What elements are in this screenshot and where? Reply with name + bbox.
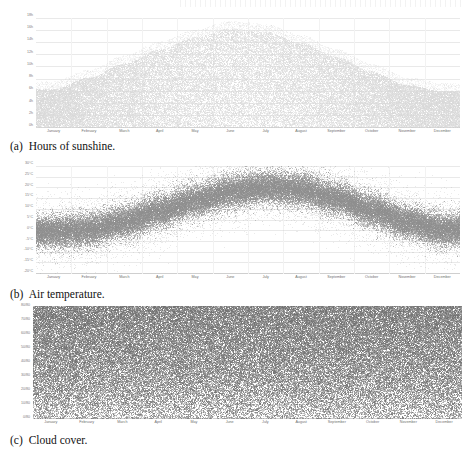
x-tick-label-month: June <box>226 130 234 134</box>
x-tick-label-month: October <box>365 130 378 134</box>
x-tick-label-month: July <box>262 130 269 134</box>
x-tick-label-month: October <box>366 421 379 425</box>
caption-c-tag: (c) <box>10 434 23 446</box>
x-tick-label-month: August <box>295 130 306 134</box>
x-tick-label-month: January <box>47 130 60 134</box>
plot-area-c <box>33 306 462 419</box>
caption-b-text: Air temperature. <box>29 288 105 300</box>
plot-c: 80/8070/8060/8050/8040/8030/8020/8010/80… <box>0 306 465 434</box>
y-tick-label: 14h <box>27 39 33 43</box>
x-tick-label-month: September <box>327 276 345 280</box>
subfigure-a-hours-of-sunshine: 18h16h14h12h10h8h6h4h2h0h JanuaryFebruar… <box>0 16 465 144</box>
previous-figure-remnant <box>180 0 465 7</box>
y-tick-label: -5°C <box>26 238 33 242</box>
x-tick-label-month: January <box>47 276 60 280</box>
subfigure-c-cloud-cover: 80/8070/8060/8050/8040/8030/8020/8010/80… <box>0 306 465 456</box>
x-tick-label-month: August <box>295 276 306 280</box>
x-tick-label-month: May <box>192 130 199 134</box>
x-tick-label-month: February <box>82 276 97 280</box>
y-tick-label: 0°C <box>27 227 33 231</box>
scatter-cloud-a <box>36 18 460 128</box>
y-tick-label: 40/80 <box>21 360 30 364</box>
x-tick-label-month: July <box>262 421 269 425</box>
x-tick-label-month: April <box>156 276 163 280</box>
x-tick-label-month: December <box>436 421 453 425</box>
y-tick-label: 2h <box>29 112 33 116</box>
y-tick-label: 30/80 <box>21 374 30 378</box>
y-tick-label: 8h <box>29 75 33 79</box>
y-tick-label: 50/80 <box>21 346 30 350</box>
caption-b: (b) Air temperature. <box>10 288 105 301</box>
y-tick-label: 30°C <box>25 162 33 166</box>
x-axis-b: JanuaryFebruaryMarchAprilMayJuneJulyAugu… <box>0 276 465 284</box>
y-axis-a: 18h16h14h12h10h8h6h4h2h0h <box>0 16 33 128</box>
y-tick-label: 4h <box>29 100 33 104</box>
y-tick-label: 15°C <box>25 195 33 199</box>
y-tick-label: 20/80 <box>21 388 30 392</box>
x-tick-label-month: October <box>365 276 378 280</box>
y-axis-b: 30°C25°C20°C15°C10°C5°C0°C-5°C-10°C-15°C… <box>0 164 33 274</box>
y-tick-label: 5°C <box>27 216 33 220</box>
x-tick-label-month: February <box>79 421 94 425</box>
plot-a: 18h16h14h12h10h8h6h4h2h0h JanuaryFebruar… <box>0 16 465 134</box>
y-tick-label: 16h <box>27 26 33 30</box>
caption-a: (a) Hours of sunshine. <box>10 140 115 153</box>
x-tick-label-month: April <box>156 130 163 134</box>
scatter-cloud-c <box>33 306 462 419</box>
y-tick-label: 12h <box>27 51 33 55</box>
y-tick-label: -10°C <box>24 249 33 253</box>
y-axis-c: 80/8070/8060/8050/8040/8030/8020/8010/80… <box>0 306 30 419</box>
y-tick-label: -15°C <box>24 259 33 263</box>
x-tick-label-month: February <box>82 130 97 134</box>
caption-c: (c) Cloud cover. <box>10 434 87 447</box>
x-axis-a: JanuaryFebruaryMarchAprilMayJuneJulyAugu… <box>0 130 465 138</box>
x-tick-label-month: November <box>398 130 415 134</box>
x-tick-label-month: December <box>434 130 451 134</box>
x-axis-c: JanuaryFebruaryMarchAprilMayJuneJulyAugu… <box>0 421 465 429</box>
y-tick-label: 6h <box>29 88 33 92</box>
x-tick-label-month: June <box>226 276 234 280</box>
y-tick-label: 70/80 <box>21 318 30 322</box>
y-tick-label: 80/80 <box>21 304 30 308</box>
y-tick-label: -20°C <box>24 270 33 274</box>
y-tick-label: 20°C <box>25 184 33 188</box>
plot-area-b <box>36 166 460 274</box>
x-tick-label-month: March <box>117 421 127 425</box>
figure-page: 18h16h14h12h10h8h6h4h2h0h JanuaryFebruar… <box>0 0 465 459</box>
scatter-cloud-b <box>36 166 460 274</box>
caption-c-text: Cloud cover. <box>29 434 88 446</box>
caption-b-tag: (b) <box>10 288 23 300</box>
x-tick-label-month: May <box>192 276 199 280</box>
y-tick-label: 10h <box>27 63 33 67</box>
y-tick-label: 10/80 <box>21 402 30 406</box>
x-tick-label-month: March <box>119 276 129 280</box>
plot-b: 30°C25°C20°C15°C10°C5°C0°C-5°C-10°C-15°C… <box>0 164 465 284</box>
x-tick-label-month: September <box>327 130 345 134</box>
x-tick-label-month: December <box>434 276 451 280</box>
x-tick-label-month: November <box>400 421 417 425</box>
y-tick-label: 18h <box>27 14 33 18</box>
x-tick-label-month: November <box>398 276 415 280</box>
y-tick-label: 0/80 <box>23 416 30 420</box>
y-tick-label: 0h <box>29 124 33 128</box>
x-tick-label-month: March <box>119 130 129 134</box>
y-tick-label: 25°C <box>25 173 33 177</box>
x-tick-label-month: July <box>262 276 269 280</box>
x-tick-label-month: September <box>328 421 346 425</box>
x-tick-label-month: April <box>154 421 161 425</box>
y-tick-label: 10°C <box>25 205 33 209</box>
x-tick-label-month: May <box>190 421 197 425</box>
caption-a-text: Hours of sunshine. <box>29 140 116 152</box>
plot-area-a <box>36 18 460 128</box>
x-tick-label-month: August <box>295 421 306 425</box>
caption-a-tag: (a) <box>10 140 23 152</box>
subfigure-b-air-temperature: 30°C25°C20°C15°C10°C5°C0°C-5°C-10°C-15°C… <box>0 164 465 292</box>
y-tick-label: 60/80 <box>21 332 30 336</box>
x-tick-label-month: June <box>226 421 234 425</box>
x-tick-label-month: January <box>44 421 57 425</box>
